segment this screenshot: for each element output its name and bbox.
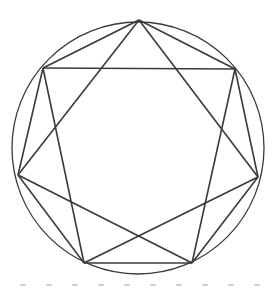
faint-caption-marks bbox=[20, 284, 260, 290]
heptagram-edge bbox=[43, 68, 235, 69]
geometry-diagram bbox=[0, 0, 275, 292]
heptagon-edge bbox=[43, 20, 139, 68]
heptagram-star bbox=[18, 20, 258, 263]
heptagon-outline bbox=[18, 20, 258, 263]
heptagram-edge bbox=[84, 177, 258, 263]
heptagram-edge bbox=[139, 20, 258, 177]
heptagram-edge bbox=[18, 175, 192, 263]
heptagon-edge bbox=[139, 20, 235, 69]
